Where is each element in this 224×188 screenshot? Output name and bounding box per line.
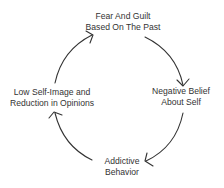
node-label-line1: Addictive: [105, 156, 140, 167]
node-label-line1: Low Self-Image and: [10, 87, 94, 98]
node-low-self-image: Low Self-Image and Reduction in Opinions: [10, 87, 94, 108]
node-label-line2: Behavior: [105, 167, 140, 178]
arrow-right-to-bottom: [146, 113, 183, 161]
node-negative-belief: Negative Belief About Self: [152, 86, 210, 107]
node-label-line2: Based On The Past: [86, 22, 161, 33]
node-fear-and-guilt: Fear And Guilt Based On The Past: [86, 11, 161, 32]
arrow-top-to-right: [145, 37, 183, 85]
node-addictive-behavior: Addictive Behavior: [105, 156, 140, 177]
cycle-diagram: Fear And Guilt Based On The Past Negativ…: [0, 0, 224, 188]
node-label-line1: Fear And Guilt: [86, 11, 161, 22]
node-label-line2: Reduction in Opinions: [10, 98, 94, 109]
node-label-line2: About Self: [152, 97, 210, 108]
arrow-left-to-top: [55, 35, 92, 83]
arrow-bottom-to-left: [55, 113, 92, 160]
arrowhead-top-icon: [86, 31, 93, 43]
node-label-line1: Negative Belief: [152, 86, 210, 97]
